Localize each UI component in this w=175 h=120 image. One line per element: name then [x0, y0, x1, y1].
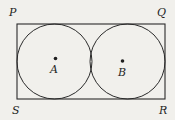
center-dot-a	[54, 57, 58, 61]
center-dot-b	[121, 59, 125, 63]
label-b: B	[117, 66, 126, 79]
circle-a	[17, 24, 92, 99]
rectangle-pqrs	[17, 24, 165, 99]
label-s: S	[12, 104, 20, 117]
circle-b	[90, 24, 165, 99]
label-q: Q	[157, 6, 166, 19]
label-p: P	[8, 6, 17, 19]
label-r: R	[158, 104, 167, 117]
figure-svg: P Q S R A B	[0, 0, 175, 120]
geometry-figure: P Q S R A B	[0, 0, 175, 120]
label-a: A	[49, 63, 58, 76]
